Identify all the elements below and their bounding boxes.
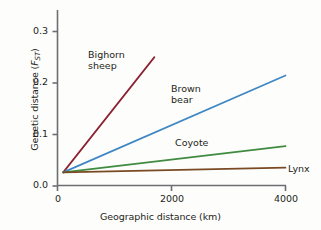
x-tick-label-2000: 2000 [149,193,195,204]
y-axis-title-symbol: F [29,60,40,65]
x-tick-label-0: 0 [35,193,81,204]
series-label-bighorn-sheep-line2: sheep [88,60,125,71]
series-label-coyote: Coyote [175,137,208,148]
series-label-brown-bear-line1: Brown [171,83,201,94]
series-line-bighorn-sheep [63,57,154,172]
series-label-lynx: Lynx [288,163,310,174]
y-axis-title-prefix: Genetic distance ( [29,66,40,151]
series-label-bighorn-sheep: Bighorn sheep [88,49,125,71]
series-label-brown-bear: Brown bear [171,83,201,105]
x-axis-title: Geographic distance (km) [0,211,321,222]
series-label-bighorn-sheep-line1: Bighorn [88,49,125,60]
chart-figure: 0.3 0.2 0.1 0.0 0 2000 4000 Geographic d… [0,0,321,230]
x-axis-ticks [58,186,286,192]
y-axis-title: Genetic distance (FST) [29,12,40,187]
series-label-brown-bear-line2: bear [171,94,201,105]
y-axis-title-subscript: ST [34,52,42,61]
data-series-group [63,57,285,172]
x-tick-label-4000: 4000 [263,193,309,204]
